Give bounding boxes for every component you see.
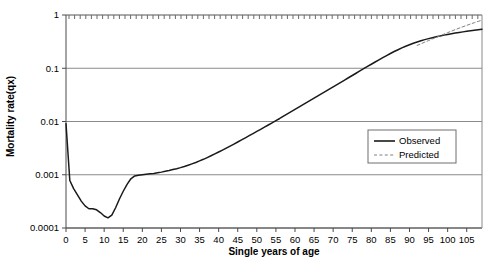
x-tick-label: 100 [440,234,456,245]
x-tick-label: 40 [213,234,224,245]
x-tick-label: 75 [347,234,358,245]
x-tick-label: 65 [309,234,320,245]
y-tick-label: 1 [54,9,59,20]
x-tick-label: 25 [156,234,167,245]
x-tick-label: 5 [82,234,87,245]
x-tick-label: 0 [63,234,68,245]
x-tick-label: 35 [194,234,205,245]
chart-legend: ObservedPredicted [368,130,456,163]
y-axis-title: Mortality rate(qx) [0,0,22,232]
x-tick-label: 60 [290,234,301,245]
x-tick-label: 80 [366,234,377,245]
x-tick-label: 85 [385,234,396,245]
x-tick-label: 45 [232,234,243,245]
x-tick-label: 55 [271,234,282,245]
y-axis-title-text: Mortality rate(qx) [6,75,17,156]
x-tick-label: 95 [423,234,434,245]
x-tick-label: 10 [99,234,110,245]
y-tick-label: 0.0001 [30,222,59,233]
x-tick-label: 70 [328,234,339,245]
x-tick-label: 30 [175,234,186,245]
mortality-rate-chart: 0.00010.0010.010.11 05101520253035404550… [0,0,494,268]
x-tick-label: 90 [404,234,415,245]
x-axis-ticks: 0510152025303540455055606570758085909510… [63,228,474,245]
x-tick-label: 15 [118,234,129,245]
chart-canvas: 0.00010.0010.010.11 05101520253035404550… [0,0,494,268]
x-axis-title-text: Single years of age [66,246,482,257]
y-tick-label: 0.1 [46,63,59,74]
legend-label-predicted: Predicted [399,149,439,160]
x-tick-label: 105 [459,234,475,245]
y-tick-label: 0.001 [35,169,59,180]
x-tick-label: 50 [252,234,263,245]
x-tick-label: 20 [137,234,148,245]
y-axis-ticks: 0.00010.0010.010.11 [30,9,66,233]
y-tick-label: 0.01 [41,116,60,127]
legend-label-observed: Observed [399,135,440,146]
